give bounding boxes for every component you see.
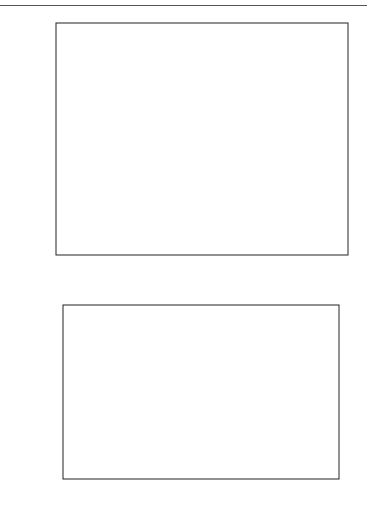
bottom-chart-frame bbox=[63, 305, 339, 479]
bottom-chart bbox=[0, 0, 367, 528]
